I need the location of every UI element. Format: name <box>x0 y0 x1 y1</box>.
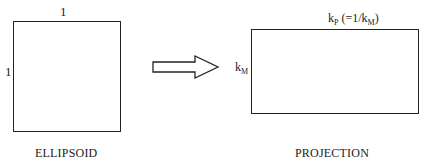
ellipsoid-caption: ELLIPSOID <box>35 146 97 161</box>
ellipsoid-square <box>13 21 121 132</box>
projection-height-label: kM <box>235 61 248 76</box>
ellipsoid-width-label: 1 <box>60 5 67 18</box>
projection-rectangle <box>251 29 419 114</box>
projection-caption: PROJECTION <box>295 146 369 161</box>
projection-width-label: kP (=1/kM) <box>328 12 379 27</box>
right-arrow-icon <box>150 54 222 80</box>
ellipsoid-height-label: 1 <box>5 65 12 78</box>
